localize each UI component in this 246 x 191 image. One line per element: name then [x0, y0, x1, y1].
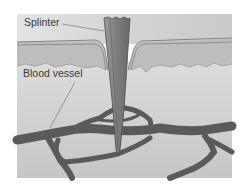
diagram-illustration: [0, 0, 246, 191]
splinter-label: Splinter: [24, 17, 60, 28]
splinter-diagram: Splinter Blood vessel: [0, 0, 246, 191]
blood-vessel-label: Blood vessel: [23, 68, 83, 79]
